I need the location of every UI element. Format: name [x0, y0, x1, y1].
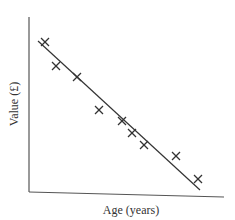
- data-points: [41, 38, 202, 183]
- x-marker-icon: [128, 129, 136, 137]
- x-marker-icon: [194, 175, 202, 183]
- scatter-chart: Age (years) Value (£): [0, 0, 235, 220]
- x-axis: [29, 192, 224, 197]
- trend-line: [38, 41, 200, 190]
- x-axis-label: Age (years): [103, 203, 159, 217]
- x-marker-icon: [52, 62, 60, 70]
- x-marker-icon: [140, 141, 148, 149]
- x-marker-icon: [95, 106, 103, 114]
- x-marker-icon: [41, 38, 49, 46]
- x-marker-icon: [73, 73, 81, 81]
- y-axis-label: Value (£): [7, 82, 21, 126]
- x-marker-icon: [172, 152, 180, 160]
